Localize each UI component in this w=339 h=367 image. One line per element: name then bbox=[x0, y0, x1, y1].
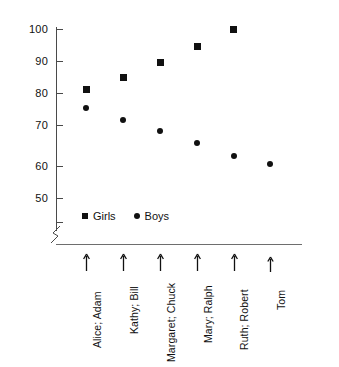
data-point-boys-1 bbox=[120, 117, 126, 123]
y-tick-label-80: 80 bbox=[18, 87, 48, 99]
y-tick-label-90: 90 bbox=[18, 55, 48, 67]
data-point-boys-2 bbox=[157, 128, 163, 134]
x-axis-line bbox=[56, 244, 302, 245]
legend-item-boys: Boys bbox=[134, 210, 169, 222]
scatter-chart: 100 90 80 70 60 50 Girls bbox=[0, 0, 339, 367]
data-point-girls-0 bbox=[83, 86, 90, 93]
y-tick-60 bbox=[56, 166, 63, 167]
data-point-girls-3 bbox=[194, 43, 201, 50]
x-axis-label-2: Margaret; Chuck bbox=[165, 283, 177, 362]
data-point-girls-1 bbox=[120, 74, 127, 81]
y-tick-label-70: 70 bbox=[18, 119, 48, 131]
legend-label-boys: Boys bbox=[145, 210, 169, 222]
legend-label-girls: Girls bbox=[93, 210, 116, 222]
data-point-girls-2 bbox=[157, 59, 164, 66]
up-arrow-icon-3 bbox=[193, 253, 202, 271]
up-arrow-icon-4 bbox=[230, 253, 239, 271]
up-arrow-icon-2 bbox=[156, 253, 165, 271]
up-arrow-icon-5 bbox=[266, 255, 275, 273]
y-tick-90 bbox=[56, 61, 63, 62]
axis-break-icon bbox=[49, 224, 65, 244]
legend-item-girls: Girls bbox=[82, 210, 116, 222]
chart-legend: Girls Boys bbox=[82, 210, 180, 222]
data-point-girls-4 bbox=[230, 26, 237, 33]
up-arrow-icon-1 bbox=[119, 253, 128, 271]
y-tick-label-50: 50 bbox=[18, 192, 48, 204]
x-axis-label-3: Mary; Ralph bbox=[202, 285, 214, 343]
x-axis-label-4: Ruth; Robert bbox=[238, 289, 250, 350]
plot-area: 100 90 80 70 60 50 Girls bbox=[0, 0, 339, 367]
y-tick-minor bbox=[56, 222, 63, 223]
data-point-boys-0 bbox=[83, 105, 89, 111]
up-arrow-icon-0 bbox=[82, 253, 91, 271]
y-tick-70 bbox=[56, 125, 63, 126]
x-axis-label-0: Alice; Adam bbox=[91, 291, 103, 348]
data-point-boys-3 bbox=[194, 140, 200, 146]
x-axis-label-5: Tom bbox=[275, 290, 287, 310]
square-marker-icon bbox=[82, 213, 88, 219]
circle-marker-icon bbox=[134, 213, 140, 219]
y-tick-80 bbox=[56, 93, 63, 94]
y-tick-label-60: 60 bbox=[18, 160, 48, 172]
data-point-boys-5 bbox=[267, 161, 273, 167]
x-axis-label-1: Kathy; Bill bbox=[128, 286, 140, 334]
y-tick-50 bbox=[56, 198, 63, 199]
y-tick-label-100: 100 bbox=[18, 23, 48, 35]
y-axis-line bbox=[56, 27, 57, 231]
data-point-boys-4 bbox=[231, 153, 237, 159]
y-tick-100 bbox=[56, 29, 63, 30]
